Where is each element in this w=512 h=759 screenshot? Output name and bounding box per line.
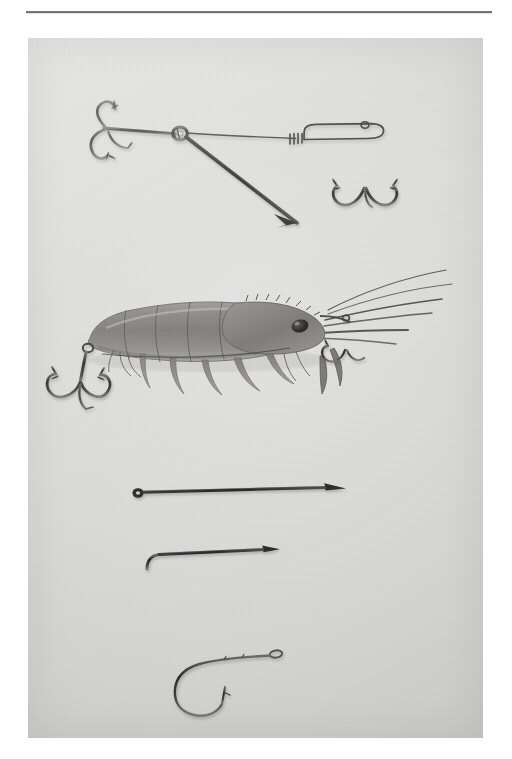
header-rule-shadow (26, 13, 492, 14)
baiting-needle-long (132, 483, 346, 498)
plate-vignette (28, 38, 483, 738)
baiting-needle-short (147, 546, 280, 569)
shrimp-bait (47, 270, 452, 409)
rig-wire-through-shrimp (102, 348, 290, 357)
shrimp-swimmerets (320, 348, 342, 394)
shrimp-eye (290, 317, 310, 334)
shrimp-shadow (88, 348, 328, 372)
shrimp-legs (140, 354, 294, 395)
rig-main-shank (186, 137, 297, 229)
wire-rig (91, 102, 397, 229)
wire-eye-knot (173, 127, 188, 140)
plate-grain-texture (28, 38, 483, 738)
shrimp-maxillipeds (109, 350, 310, 381)
shrimp-tail-treble-hook (47, 344, 110, 409)
shrimp-abdomen (88, 302, 303, 362)
front-treble-hook (91, 102, 175, 160)
rig-connector-wire (187, 133, 296, 139)
shrimp-antennae (316, 270, 452, 344)
plate-artwork (28, 38, 483, 738)
shrimp-rostrum (246, 294, 320, 315)
rear-treble-hook (333, 122, 397, 207)
plate-sheen (28, 38, 483, 738)
wire-loop-frame (304, 124, 384, 140)
page-sheet (0, 0, 512, 759)
wire-wrap (290, 133, 302, 144)
shrimp-carapace (223, 294, 351, 354)
fishing-tackle-photographic-plate (28, 38, 483, 738)
single-hook (175, 650, 283, 716)
shrimp-head-treble-hook (322, 315, 364, 361)
